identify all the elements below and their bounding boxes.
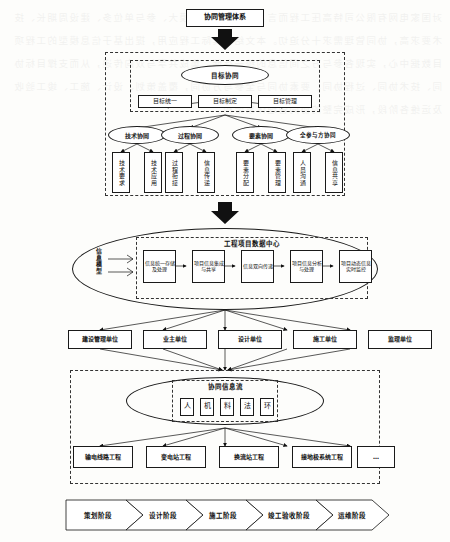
data-center-box-1: 项目信息集成与共享 (192, 250, 225, 283)
goal-box-1: 目标制定 (198, 95, 252, 108)
ellipse-goal-collaboration: 目标协同 (181, 65, 269, 85)
phase-3-label: 竣工验收阶段 (268, 510, 310, 520)
goal-box-2: 目标管理 (258, 95, 312, 108)
ellipse-goal-collaboration-label: 目标协同 (211, 70, 239, 80)
participant-box-2: 设计单位 (218, 330, 282, 349)
phase-2-label: 施工阶段 (209, 510, 237, 520)
branch-box-information-transfer: 信息传递 (197, 152, 215, 193)
project-box-4: … (357, 446, 395, 468)
phase-0-label: 策划阶段 (84, 510, 112, 520)
info-flow-element-2-label: 料 (224, 403, 231, 411)
phase-0: 策划阶段 (68, 500, 128, 530)
branch-box-personnel-communication: 人员沟通 (293, 152, 311, 193)
branch-box-element-management: 要素管理 (268, 152, 286, 193)
data-center-box-0-label: 信息统一存储及处理 (144, 261, 175, 272)
ellipse-process-collaboration-label: 过程协同 (178, 131, 202, 140)
data-center-box-4-label: 项目动态信息实时监控 (340, 261, 371, 272)
project-box-1-label: 变电站工程 (161, 454, 191, 461)
project-box-2: 换流站工程 (219, 446, 279, 468)
participant-box-4-label: 监理单位 (388, 336, 412, 343)
ellipse-all-participants-collaboration: 全参与方协同 (286, 126, 350, 144)
ellipse-all-participants-collaboration-label: 全参与方协同 (300, 131, 336, 139)
info-flow-title: 协同信息流 (190, 381, 260, 391)
project-box-0: 输电线路工程 (73, 446, 133, 468)
info-flow-element-3: 法 (240, 398, 254, 416)
data-center-box-2-label: 信息双向传递 (243, 264, 273, 270)
branch-box-information-transfer-label: 信息传递 (203, 160, 210, 186)
data-center-title-text: 工程项目数据中心 (224, 240, 280, 248)
phase-3: 竣工验收阶段 (255, 500, 323, 530)
ellipse-element-collaboration-label: 要素协同 (249, 131, 273, 140)
participant-box-3-label: 施工单位 (313, 336, 337, 343)
participant-box-1: 业主单位 (143, 330, 207, 349)
branch-box-element-management-label: 要素管理 (274, 160, 281, 186)
root-node-label: 协同管理体系 (204, 14, 246, 22)
participant-box-1-label: 业主单位 (163, 336, 187, 343)
participant-box-0: 建设管理单位 (68, 330, 132, 349)
branch-box-personnel-communication-label: 人员沟通 (299, 160, 306, 186)
branch-box-element-allocation: 要素分配 (236, 152, 254, 193)
ellipse-technical-collaboration-label: 技术协同 (125, 131, 149, 140)
goal-box-0: 目标统一 (138, 95, 192, 108)
ellipse-element-collaboration: 要素协同 (232, 126, 290, 144)
info-flow-title-text: 协同信息流 (208, 383, 243, 391)
phase-2: 施工阶段 (193, 500, 253, 530)
participant-box-3: 施工单位 (293, 330, 357, 349)
info-flow-element-2: 料 (220, 398, 234, 416)
branch-box-technical-requirement: 技术要求 (112, 152, 130, 193)
goal-box-2-label: 目标管理 (273, 98, 297, 105)
branch-box-information-sharing-label: 信息共享 (331, 160, 338, 186)
data-center-box-3: 项目信息分析与处理 (290, 250, 323, 283)
branch-box-process-connection: 过程衔接 (165, 152, 183, 193)
data-center-box-0: 信息统一存储及处理 (143, 250, 176, 283)
data-center-box-3-label: 项目信息分析与处理 (291, 261, 322, 272)
branch-box-technical-application: 技术应用 (144, 152, 162, 193)
phase-1-label: 设计阶段 (149, 510, 177, 520)
project-box-2-label: 换流站工程 (234, 454, 264, 461)
info-flow-element-1-label: 机 (204, 403, 211, 411)
participant-box-0-label: 建设管理单位 (82, 336, 118, 343)
phase-4: 运维阶段 (324, 500, 380, 530)
branch-box-element-allocation-label: 要素分配 (242, 160, 249, 186)
info-flow-element-0: 人 (180, 398, 194, 416)
info-flow-element-3-label: 法 (244, 403, 251, 411)
project-box-3-label: 接地极系统工程 (301, 454, 343, 461)
project-box-0-label: 输电线路工程 (85, 454, 121, 461)
data-center-box-1-label: 项目信息集成与共享 (193, 261, 224, 272)
data-center-box-4: 项目动态信息实时监控 (339, 250, 372, 283)
information-model-label-text: 信息模型 (95, 248, 104, 274)
data-center-title: 工程项目数据中心 (186, 238, 318, 248)
phase-4-label: 运维阶段 (338, 510, 366, 520)
project-box-3: 接地极系统工程 (292, 446, 352, 468)
branch-box-information-sharing: 信息共享 (325, 152, 343, 193)
ellipse-process-collaboration: 过程协同 (161, 126, 219, 144)
branch-box-technical-requirement-label: 技术要求 (118, 160, 125, 186)
phase-1: 设计阶段 (133, 500, 193, 530)
data-center-box-2: 信息双向传递 (241, 250, 274, 283)
goal-box-0-label: 目标统一 (153, 98, 177, 105)
branch-box-process-connection-label: 过程衔接 (171, 160, 178, 186)
ellipse-technical-collaboration: 技术协同 (108, 126, 166, 144)
participant-box-2-label: 设计单位 (238, 336, 262, 343)
branch-box-technical-application-label: 技术应用 (150, 160, 157, 186)
info-flow-element-0-label: 人 (184, 403, 191, 411)
information-model-label: 信息模型 (92, 248, 106, 275)
info-flow-element-4: 环 (260, 398, 274, 416)
project-box-1: 变电站工程 (146, 446, 206, 468)
participant-box-4: 监理单位 (368, 330, 432, 349)
root-node-collaborative-management-system: 协同管理体系 (186, 9, 264, 27)
project-box-4-label: … (373, 454, 379, 461)
goal-box-1-label: 目标制定 (213, 98, 237, 105)
info-flow-element-1: 机 (200, 398, 214, 416)
info-flow-element-4-label: 环 (264, 403, 271, 411)
